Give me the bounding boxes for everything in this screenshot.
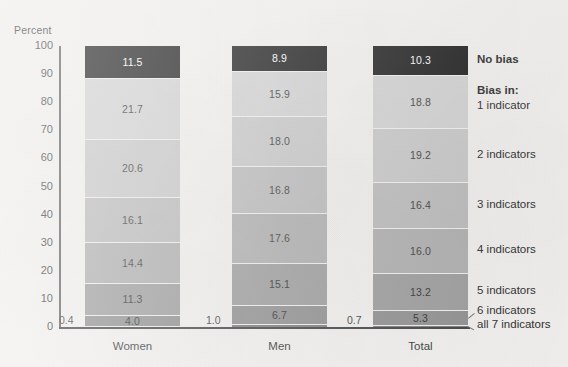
- bar-segment: 16.0: [373, 228, 468, 273]
- bar-segment: 20.6: [85, 139, 180, 197]
- segment-value-label: 16.1: [122, 215, 143, 226]
- segment-value-label: 19.2: [410, 150, 431, 161]
- bar-segment: 11.3: [85, 283, 180, 315]
- y-axis-tick-30: 30: [23, 236, 53, 248]
- bar-segment: 15.9: [232, 71, 327, 116]
- bar-segment: [85, 326, 180, 327]
- x-axis-line: [59, 327, 470, 329]
- bar-segment: 13.2: [373, 273, 468, 310]
- bar-women: 11.521.720.616.114.411.34.0: [85, 46, 180, 327]
- bar-segment: 16.1: [85, 197, 180, 242]
- y-axis-tick-100: 100: [23, 39, 53, 51]
- segment-value-label: 10.3: [410, 55, 431, 66]
- bar-segment: [232, 324, 327, 327]
- chart-canvas: Percent 0102030405060708090100 0.411.521…: [0, 0, 568, 367]
- legend-item-1-indicator: 1 indicator: [477, 99, 530, 113]
- y-axis-tick-20: 20: [23, 264, 53, 276]
- bar-segment: 11.5: [85, 46, 180, 78]
- bar-men: 8.915.918.016.817.615.16.7: [232, 46, 327, 327]
- segment-value-label: 8.9: [272, 53, 287, 64]
- legend-item-4-indicators: 4 indicators: [477, 243, 536, 257]
- bar-segment: 17.6: [232, 213, 327, 262]
- segment-value-label: 21.7: [122, 104, 143, 115]
- x-axis-label-men: Men: [232, 340, 327, 352]
- segment-value-label: 17.6: [269, 233, 290, 244]
- y-axis-tick-80: 80: [23, 95, 53, 107]
- legend-item-bias-in: Bias in:: [477, 84, 519, 98]
- y-axis-tick-0: 0: [23, 320, 53, 332]
- y-axis-tick-50: 50: [23, 180, 53, 192]
- bar-segment: 4.0: [85, 315, 180, 326]
- legend-item-5-indicators: 5 indicators: [477, 284, 536, 298]
- bar-segment: 21.7: [85, 78, 180, 139]
- bar-segment: [373, 325, 468, 327]
- segment-value-label: 15.9: [269, 89, 290, 100]
- bar-segment: 6.7: [232, 305, 327, 324]
- segment-value-label-outside: 0.4: [59, 314, 74, 326]
- x-axis-label-total: Total: [373, 340, 468, 352]
- bar-total: 10.318.819.216.416.013.25.3: [373, 46, 468, 327]
- bar-segment: 10.3: [373, 46, 468, 75]
- bar-segment: 16.8: [232, 166, 327, 213]
- y-axis-tick-60: 60: [23, 151, 53, 163]
- segment-value-label: 20.6: [122, 163, 143, 174]
- bar-segment: 5.3: [373, 310, 468, 325]
- bar-segment: 15.1: [232, 263, 327, 305]
- bar-segment: 18.0: [232, 116, 327, 167]
- bar-segment: 18.8: [373, 75, 468, 128]
- legend-item-2-indicators: 2 indicators: [477, 148, 536, 162]
- bar-segment: 8.9: [232, 46, 327, 71]
- y-axis-tick-10: 10: [23, 292, 53, 304]
- leader-line-6-indicators: [468, 313, 475, 319]
- segment-value-label: 4.0: [125, 316, 140, 327]
- bar-segment: 16.4: [373, 182, 468, 228]
- x-axis-label-women: Women: [85, 340, 180, 352]
- segment-value-label: 18.8: [410, 97, 431, 108]
- segment-value-label-outside: 0.7: [347, 314, 362, 326]
- segment-value-label: 15.1: [269, 279, 290, 290]
- legend-item-6-indicators: 6 indicators: [477, 304, 536, 318]
- segment-value-label: 18.0: [269, 136, 290, 147]
- segment-value-label: 14.4: [122, 258, 143, 269]
- legend-item-all-7-indicators: all 7 indicators: [477, 318, 551, 332]
- bar-segment: 14.4: [85, 242, 180, 282]
- y-axis-title: Percent: [14, 24, 52, 36]
- segment-value-label: 11.5: [122, 57, 142, 68]
- legend-item-3-indicators: 3 indicators: [477, 198, 536, 212]
- segment-value-label: 16.0: [410, 246, 431, 257]
- segment-value-label: 16.8: [269, 185, 290, 196]
- segment-value-label: 13.2: [410, 287, 431, 298]
- y-axis-tick-70: 70: [23, 123, 53, 135]
- segment-value-label: 6.7: [272, 310, 287, 321]
- y-axis-tick-90: 90: [23, 67, 53, 79]
- segment-value-label: 11.3: [122, 294, 142, 305]
- segment-value-label: 5.3: [413, 313, 428, 324]
- segment-value-label: 16.4: [410, 200, 431, 211]
- segment-value-label-outside: 1.0: [206, 314, 221, 326]
- y-axis-line: [59, 46, 61, 328]
- legend-item-no-bias: No bias: [477, 53, 519, 67]
- y-axis-tick-40: 40: [23, 208, 53, 220]
- bar-segment: 19.2: [373, 128, 468, 182]
